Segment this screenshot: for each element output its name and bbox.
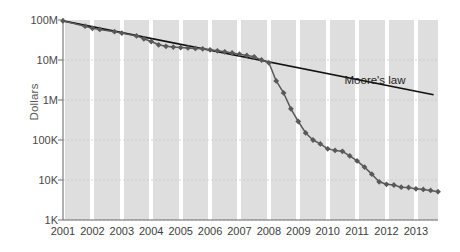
chart-root: Dollars 100M10M1M100K10K1K 2001200220032… [0,0,460,252]
gridlines [58,20,438,220]
cost-per-genome-markers [60,18,441,195]
cost-per-genome-line [63,21,438,192]
chart-canvas [0,0,460,252]
moores-law-annotation: Moore's law [345,74,406,86]
axis-lines [63,18,438,220]
